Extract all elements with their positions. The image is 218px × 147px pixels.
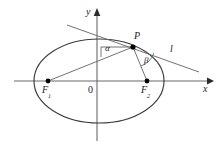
x-axis-arrowhead <box>207 78 214 85</box>
y-axis-label: y <box>86 7 90 17</box>
point-f1-marker <box>46 79 51 84</box>
x-axis-label: x <box>203 84 207 94</box>
y-axis <box>94 8 101 141</box>
point-f2-label-subscript: 2 <box>147 93 150 99</box>
y-axis-arrowhead <box>94 8 101 16</box>
point-f2-label: F2 <box>141 85 150 97</box>
angle-alpha-label: α <box>105 44 110 53</box>
point-f1-label: F1 <box>42 85 51 97</box>
origin-label: 0 <box>88 85 93 95</box>
ellipse-figure: y x 0 F1 F2 P α β l <box>0 0 218 147</box>
point-p-marker <box>130 44 135 49</box>
point-p-label: P <box>134 31 140 41</box>
point-f1-label-subscript: 1 <box>48 93 51 99</box>
point-f2-marker <box>145 79 150 84</box>
figure-canvas <box>0 0 218 147</box>
tangent-line-label: l <box>170 44 173 54</box>
segment-p-f1 <box>48 47 133 81</box>
angle-beta-label: β <box>144 56 148 65</box>
